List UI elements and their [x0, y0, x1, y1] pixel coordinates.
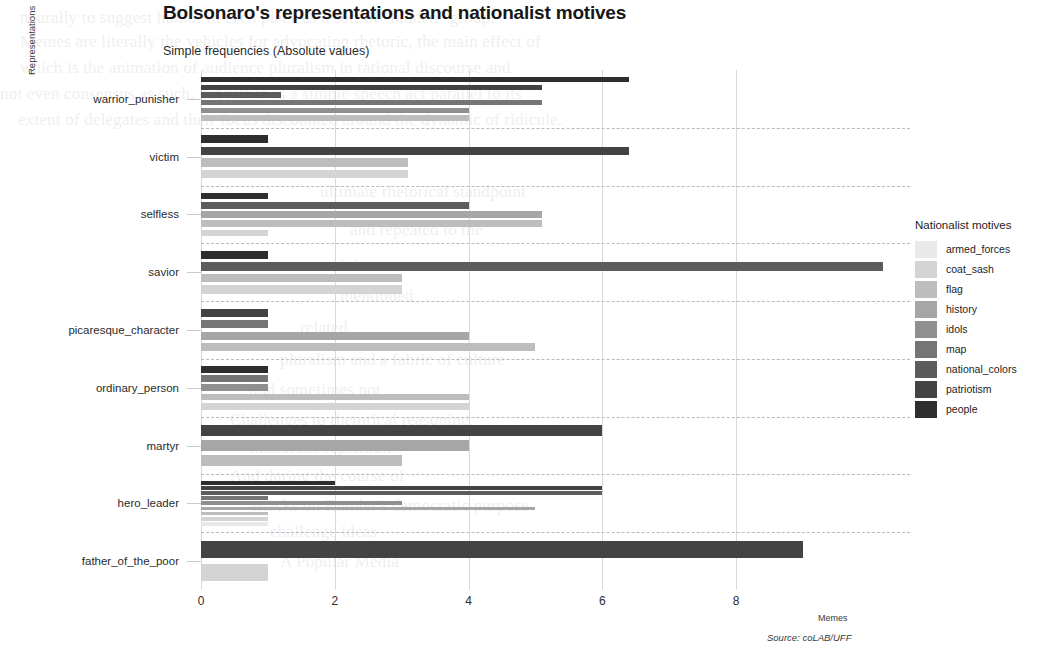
legend-item-label: patriotism	[946, 383, 992, 395]
bar	[201, 285, 402, 293]
legend-item-label: armed_forces	[946, 243, 1010, 255]
bar	[201, 274, 402, 282]
bar	[201, 115, 469, 121]
y-axis-tick-line	[187, 388, 201, 389]
legend-swatch-icon	[915, 341, 937, 358]
chart-legend: Nationalist motives armed_forcescoat_sas…	[915, 219, 1041, 419]
legend-swatch-icon	[915, 361, 937, 378]
bar	[201, 384, 268, 391]
group-separator	[201, 301, 910, 302]
source-caption: Source: coLAB/UFF	[767, 632, 851, 643]
bar	[201, 491, 602, 495]
legend-item-label: national_colors	[946, 363, 1017, 375]
group-separator	[201, 474, 910, 475]
y-axis-tick-label: picaresque_character	[11, 324, 179, 336]
y-axis-tick-line	[187, 446, 201, 447]
bar	[201, 100, 542, 106]
bar	[201, 332, 469, 340]
legend-item-label: flag	[946, 283, 963, 295]
legend-item-label: coat_sash	[946, 263, 994, 275]
bar	[201, 394, 469, 401]
x-axis-tick-label: 8	[733, 594, 740, 608]
bar	[201, 193, 268, 200]
legend-swatch-icon	[915, 241, 937, 258]
legend-swatch-icon	[915, 381, 937, 398]
y-axis-tick-label: martyr	[11, 440, 179, 452]
y-axis-tick-label: savior	[11, 266, 179, 278]
y-axis-tick-label: victim	[11, 151, 179, 163]
bar	[201, 220, 542, 227]
y-axis-tick-line	[187, 330, 201, 331]
legend-item-label: map	[946, 343, 966, 355]
x-axis-tick-label: 0	[198, 594, 205, 608]
legend-item[interactable]: map	[915, 339, 1041, 359]
y-axis-tick-line	[187, 214, 201, 215]
legend-swatch-icon	[915, 281, 937, 298]
bar	[201, 158, 408, 166]
chart-title: Bolsonaro's representations and national…	[163, 2, 626, 24]
legend-item[interactable]: history	[915, 299, 1041, 319]
y-axis-tick-line	[187, 99, 201, 100]
group-separator	[201, 186, 910, 187]
bar	[201, 108, 469, 114]
bar	[201, 262, 883, 270]
bar	[201, 440, 469, 451]
x-axis-tick-label: 4	[465, 594, 472, 608]
bar	[201, 170, 408, 178]
y-axis-tick-label: father_of_the_poor	[11, 555, 179, 567]
bar	[201, 343, 535, 351]
bar	[201, 85, 542, 91]
bar	[201, 92, 281, 98]
legend-swatch-icon	[915, 321, 937, 338]
legend-item[interactable]: national_colors	[915, 359, 1041, 379]
legend-swatch-icon	[915, 401, 937, 418]
bar	[201, 147, 629, 155]
x-axis-label: Memes	[818, 613, 848, 623]
group-separator	[201, 128, 910, 129]
bar	[201, 403, 469, 410]
bar	[201, 202, 469, 209]
y-axis-tick-line	[187, 503, 201, 504]
y-axis-tick-label: warrior_punisher	[11, 93, 179, 105]
x-axis-tick-label: 6	[599, 594, 606, 608]
bar	[201, 486, 602, 490]
bar	[201, 496, 268, 500]
bar	[201, 366, 268, 373]
group-separator	[201, 359, 910, 360]
chart-subtitle: Simple frequencies (Absolute values)	[163, 44, 369, 58]
legend-item-label: idols	[946, 323, 968, 335]
x-axis-tick-label: 2	[331, 594, 338, 608]
legend-item[interactable]: patriotism	[915, 379, 1041, 399]
bar	[201, 517, 268, 521]
legend-title: Nationalist motives	[915, 219, 1041, 231]
gridline-vertical	[736, 70, 737, 590]
legend-item[interactable]: flag	[915, 279, 1041, 299]
group-separator	[201, 532, 910, 533]
group-separator	[201, 417, 910, 418]
y-axis-tick-label: selfless	[11, 208, 179, 220]
legend-items: armed_forcescoat_sashflaghistoryidolsmap…	[915, 239, 1041, 419]
bar	[201, 135, 268, 143]
y-axis-tick-label: hero_leader	[11, 497, 179, 509]
bar	[201, 211, 542, 218]
legend-swatch-icon	[915, 301, 937, 318]
legend-item[interactable]: people	[915, 399, 1041, 419]
bar	[201, 512, 268, 516]
y-axis-tick-label: ordinary_person	[11, 382, 179, 394]
bar	[201, 481, 335, 485]
chart-container: Bolsonaro's representations and national…	[0, 0, 1041, 668]
bar	[201, 375, 268, 382]
y-axis-tick-line	[187, 561, 201, 562]
bar	[201, 455, 402, 466]
y-axis-label: Representations	[26, 6, 37, 75]
bar	[201, 564, 268, 581]
bar	[201, 507, 535, 511]
y-axis-tick-line	[187, 272, 201, 273]
legend-item-label: people	[946, 403, 978, 415]
bar	[201, 425, 602, 436]
legend-item[interactable]: armed_forces	[915, 239, 1041, 259]
legend-item[interactable]: coat_sash	[915, 259, 1041, 279]
legend-item[interactable]: idols	[915, 319, 1041, 339]
legend-swatch-icon	[915, 261, 937, 278]
legend-item-label: history	[946, 303, 977, 315]
